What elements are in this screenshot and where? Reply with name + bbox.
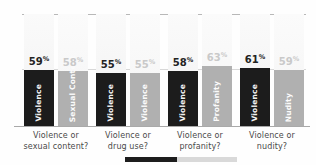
caption-line-2: profanity? bbox=[160, 141, 240, 152]
bar-slot[interactable]: Profanity63% bbox=[202, 14, 232, 126]
caption-line-1: Violence or bbox=[88, 130, 168, 141]
category-caption: Violence ornudity? bbox=[232, 130, 312, 152]
percent-symbol: % bbox=[43, 55, 50, 63]
bar-group: Violence55%Violence55% bbox=[96, 14, 160, 126]
bar-slot[interactable]: Nudity59% bbox=[274, 14, 304, 126]
bar-inline-label-text: Violence bbox=[251, 84, 259, 122]
percent-symbol: % bbox=[293, 55, 300, 63]
bar-value-label: 59% bbox=[274, 56, 304, 67]
bar-violence[interactable]: Violence bbox=[96, 73, 126, 126]
bar-slot[interactable]: Violence59% bbox=[24, 14, 54, 126]
bar-violence[interactable]: Violence bbox=[240, 68, 270, 126]
bar-inline-label-text: Violence bbox=[141, 84, 149, 122]
bar-inline-label-text: Nudity bbox=[285, 93, 293, 122]
category-caption: Violence ordrug use? bbox=[88, 130, 168, 152]
bar-slot[interactable]: Sexual Content58% bbox=[58, 14, 88, 126]
bar-inline-label-text: Profanity bbox=[213, 81, 221, 122]
bar-group: Violence61%Nudity59% bbox=[240, 14, 304, 126]
bar-profanity[interactable]: Profanity bbox=[202, 66, 232, 126]
legend-strip bbox=[125, 157, 237, 162]
bar-group: Violence59%Sexual Content58% bbox=[24, 14, 88, 126]
bar-slot[interactable]: Violence55% bbox=[96, 14, 126, 126]
bar-sexual-content[interactable]: Sexual Content bbox=[58, 71, 88, 126]
legend-segment-dark bbox=[125, 157, 177, 162]
bar-chart: Violence59%Sexual Content58%Violence55%V… bbox=[0, 0, 316, 165]
bar-value-label: 59% bbox=[24, 56, 54, 67]
percent-symbol: % bbox=[77, 56, 84, 64]
bar-inline-label: Violence bbox=[240, 60, 270, 122]
percent-symbol: % bbox=[149, 58, 156, 66]
category-caption: Violence orsexual content? bbox=[16, 130, 96, 152]
bar-inline-label-text: Violence bbox=[35, 84, 43, 122]
percent-symbol: % bbox=[115, 58, 122, 66]
plot-area: Violence59%Sexual Content58%Violence55%V… bbox=[0, 14, 316, 126]
percent-symbol: % bbox=[221, 51, 228, 59]
bar-inline-label: Nudity bbox=[274, 60, 304, 122]
caption-line-2: sexual content? bbox=[16, 141, 96, 152]
percent-symbol: % bbox=[187, 56, 194, 64]
bar-inline-label: Violence bbox=[24, 60, 54, 122]
bar-violence[interactable]: Violence bbox=[130, 73, 160, 126]
bar-inline-label: Profanity bbox=[202, 60, 232, 122]
bar-value-label: 55% bbox=[130, 59, 160, 70]
caption-line-1: Violence or bbox=[232, 130, 312, 141]
bar-inline-label-text: Violence bbox=[179, 84, 187, 122]
bar-slot[interactable]: Violence55% bbox=[130, 14, 160, 126]
caption-line-2: drug use? bbox=[88, 141, 168, 152]
category-captions: Violence orsexual content?Violence ordru… bbox=[0, 130, 316, 160]
bar-violence[interactable]: Violence bbox=[24, 70, 54, 126]
axis-baseline bbox=[14, 126, 310, 127]
bar-value-label: 58% bbox=[58, 57, 88, 68]
category-caption: Violence orprofanity? bbox=[160, 130, 240, 152]
bar-violence[interactable]: Violence bbox=[168, 71, 198, 126]
bar-nudity[interactable]: Nudity bbox=[274, 70, 304, 126]
percent-symbol: % bbox=[259, 53, 266, 61]
bar-value-label: 63% bbox=[202, 52, 232, 63]
bar-value-label: 58% bbox=[168, 57, 198, 68]
bar-value-label: 55% bbox=[96, 59, 126, 70]
caption-line-2: nudity? bbox=[232, 141, 312, 152]
bar-inline-label-text: Violence bbox=[107, 84, 115, 122]
bar-slot[interactable]: Violence61% bbox=[240, 14, 270, 126]
bar-value-label: 61% bbox=[240, 54, 270, 65]
bar-slot[interactable]: Violence58% bbox=[168, 14, 198, 126]
caption-line-1: Violence or bbox=[16, 130, 96, 141]
legend-segment-light bbox=[177, 157, 237, 162]
bar-group: Violence58%Profanity63% bbox=[168, 14, 232, 126]
caption-line-1: Violence or bbox=[160, 130, 240, 141]
